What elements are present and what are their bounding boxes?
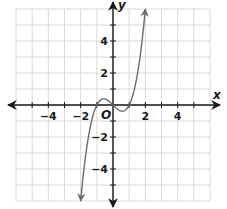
y-tick-label: 4 [100,35,108,48]
x-tick-label: 4 [174,110,182,123]
axes [8,2,220,207]
cubic-function-graph: −4−22442−2−4 x y O [0,0,227,209]
y-tick-label: −4 [91,163,108,176]
x-tick-label: −4 [40,110,57,123]
origin-label: O [101,108,111,122]
x-axis-label: x [212,88,222,102]
y-tick-label: −2 [91,131,108,144]
x-tick-label: −2 [72,110,89,123]
x-tick-label: 2 [142,110,150,123]
y-axis-label: y [118,0,127,12]
y-tick-label: 2 [100,67,108,80]
